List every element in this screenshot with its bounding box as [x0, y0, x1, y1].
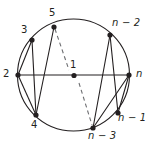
vertex-label-vn2: n − 2 [112, 18, 140, 28]
vertex-label-v1: 1 [70, 60, 77, 70]
vertex-label-v3: 3 [21, 25, 28, 35]
dashed-segment-v5-v1 [55, 29, 69, 70]
chord-v3-v4 [32, 40, 36, 115]
vertex-label-v2: 2 [3, 69, 10, 79]
vertex-label-vn1: n − 1 [118, 113, 146, 123]
vertex-dot-v2 [15, 72, 20, 77]
vertex-dot-v3 [29, 37, 34, 42]
vertex-dot-vn [126, 72, 131, 77]
vertex-label-vn: n [136, 69, 143, 79]
vertex-label-vn3: n − 3 [88, 131, 116, 141]
vertex-dot-v1 [71, 73, 76, 78]
chord-vn-vn1 [118, 75, 129, 113]
vertex-label-v5: 5 [49, 8, 56, 18]
chord-v5-v4 [36, 27, 54, 115]
vertex-label-v4: 4 [31, 120, 38, 130]
vertex-dot-v5 [51, 24, 56, 29]
chord-vn2-vn3 [93, 35, 110, 128]
dashed-segment-v1-vn3 [79, 83, 92, 125]
figure-container: 12345nn − 1n − 2n − 3 [0, 0, 149, 143]
vertex-dot-vn2 [107, 32, 112, 37]
vertex-dot-v4 [33, 112, 38, 117]
